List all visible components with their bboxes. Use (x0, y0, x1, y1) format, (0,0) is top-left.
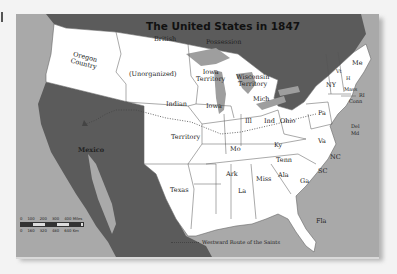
label-wisconsin-territory: Wisconsin Territory (236, 74, 269, 88)
label-nh: H (346, 76, 350, 81)
scale-mi-1: 100 (27, 216, 34, 221)
label-iowa: Iowa (206, 103, 222, 110)
label-mich: Mich (253, 96, 270, 103)
label-territory: Territory (171, 134, 200, 141)
label-del: Del (351, 124, 360, 129)
map-title: The United States in 1847 (146, 20, 300, 32)
scale-km-3: 480 (52, 228, 59, 233)
label-british: British (154, 36, 176, 43)
legend-label: Westward Route of the Saints (202, 239, 280, 245)
scale-km-4: 640 Km (64, 228, 79, 233)
scale-km: 0 160 320 480 640 Km (20, 228, 84, 233)
label-wisconsin-line2: Territory (236, 81, 269, 88)
label-indian: Indian (166, 101, 187, 108)
label-ala: Ala (278, 172, 289, 179)
scale-bar: 0 100 200 300 400 Miles 0 160 320 480 64… (20, 216, 84, 233)
label-conn: Conn (349, 99, 362, 104)
label-sc: SC (318, 168, 327, 175)
label-ind: Ind (264, 118, 275, 125)
label-iowa-territory-line2: Territory (196, 76, 225, 83)
label-miss: Miss (256, 176, 271, 183)
scale-mi-0: 0 (20, 216, 22, 221)
scale-km-0: 0 (20, 228, 22, 233)
label-ky: Ky (274, 142, 282, 149)
label-me: Me (352, 60, 363, 67)
label-iowa-territory: Iowa Territory (196, 69, 225, 83)
route-line-sample (171, 242, 199, 243)
label-md: Md (351, 131, 359, 136)
label-tenn: Tenn (276, 157, 292, 164)
label-pa: Pa (318, 110, 326, 117)
label-nc: NC (330, 154, 341, 161)
label-va: Va (318, 138, 326, 145)
scale-miles: 0 100 200 300 400 Miles (20, 216, 84, 221)
page-background: The United States in 1847 British Posses… (0, 0, 397, 274)
scale-mi-3: 300 (52, 216, 59, 221)
label-ga: Ga (300, 178, 309, 185)
scale-km-2: 320 (40, 228, 47, 233)
scale-mi-4: 400 Miles (64, 216, 82, 221)
label-la: La (238, 188, 246, 195)
label-vt: Vt (336, 69, 342, 74)
label-ny: NY (326, 82, 336, 89)
edge-mark (1, 12, 3, 22)
map-figure: The United States in 1847 British Posses… (16, 14, 379, 259)
scale-mi-2: 200 (40, 216, 47, 221)
label-fla: Fla (316, 218, 326, 225)
scale-km-1: 160 (27, 228, 34, 233)
scale-graphic (20, 222, 84, 227)
label-unorganized: (Unorganized) (129, 71, 177, 78)
label-texas: Texas (170, 187, 189, 194)
map-legend: Westward Route of the Saints (171, 239, 280, 245)
label-possession: Possession (206, 39, 241, 46)
label-mass: Mass (344, 87, 357, 92)
label-ill: Ill (245, 118, 252, 125)
label-ark: Ark (226, 171, 238, 178)
label-mo: Mo (230, 146, 241, 153)
label-mexico: Mexico (78, 147, 104, 154)
label-ohio: Ohio (280, 118, 296, 125)
